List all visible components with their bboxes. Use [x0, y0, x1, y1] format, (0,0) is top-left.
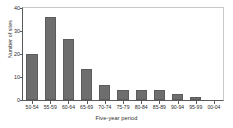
bar: [190, 97, 201, 100]
y-tick-mark: [20, 77, 23, 78]
bar: [26, 54, 37, 100]
y-tick-label: 40: [0, 4, 20, 12]
bar: [45, 17, 56, 100]
y-tick-label: 20: [0, 50, 20, 58]
bar: [99, 85, 110, 100]
bar: [117, 90, 128, 100]
y-tick-mark: [20, 8, 23, 9]
x-axis-title: Five-year period: [0, 115, 233, 121]
y-tick-mark: [20, 31, 23, 32]
x-tick-label: 00-04: [202, 104, 226, 110]
bar: [136, 90, 147, 100]
bar: [81, 69, 92, 100]
bars-group: [23, 8, 223, 100]
bar: [63, 39, 74, 100]
y-tick-label: 30: [0, 27, 20, 35]
y-tick-mark: [20, 54, 23, 55]
bar-chart: Number of sites 010203040 50-5455-5960-6…: [0, 0, 233, 128]
y-tick-label: 10: [0, 73, 20, 81]
y-tick-label: 0: [0, 96, 20, 104]
y-axis-title: Number of sites: [7, 7, 13, 71]
bar: [154, 90, 165, 100]
y-tick-mark: [20, 100, 23, 101]
bar: [172, 94, 183, 100]
